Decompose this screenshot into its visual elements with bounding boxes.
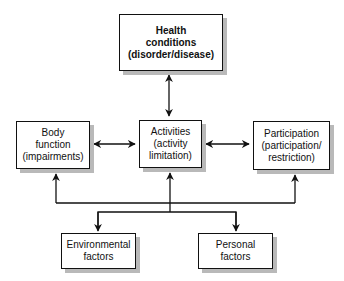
factor-branch — [98, 212, 236, 230]
node-health-conditions-label: Health conditions (disorder/disease) — [128, 25, 214, 61]
node-participation-label: Participation (participation/ restrictio… — [261, 128, 321, 164]
node-activities: Activities (activity limitation) — [139, 120, 202, 168]
node-personal-factors: Personal factors — [198, 233, 273, 269]
node-body-function-label: Body function (impairments) — [22, 127, 83, 163]
node-body-function: Body function (impairments) — [16, 121, 90, 169]
node-participation: Participation (participation/ restrictio… — [253, 121, 330, 170]
node-personal-factors-label: Personal factors — [216, 239, 255, 263]
node-health-conditions: Health conditions (disorder/disease) — [119, 14, 223, 71]
node-activities-label: Activities (activity limitation) — [149, 126, 192, 162]
node-environmental-factors: Environmental factors — [61, 233, 136, 269]
node-environmental-factors-label: Environmental factors — [67, 239, 131, 263]
